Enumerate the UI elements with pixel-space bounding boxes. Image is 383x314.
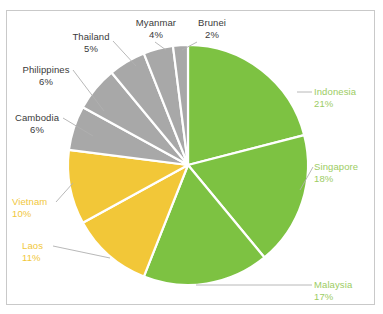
pie-label-brunei: Brunei 2% xyxy=(190,17,234,40)
pie-label-cambodia-name: Cambodia xyxy=(9,112,65,124)
pie-label-singapore-percent: 18% xyxy=(314,173,358,185)
pie-label-brunei-percent: 2% xyxy=(190,29,234,41)
pie-chart-figure: Indonesia 21% Singapore 18% Malaysia 17%… xyxy=(0,0,383,314)
pie-label-thailand-percent: 5% xyxy=(66,43,116,55)
pie-label-myanmar: Myanmar 4% xyxy=(129,17,183,40)
pie-label-malaysia-percent: 17% xyxy=(314,291,352,303)
pie-label-vietnam-percent: 10% xyxy=(12,208,47,220)
pie-label-indonesia-name: Indonesia xyxy=(314,86,356,98)
pie-label-cambodia-percent: 6% xyxy=(9,124,65,136)
pie-label-malaysia-name: Malaysia xyxy=(314,279,352,291)
pie-label-malaysia: Malaysia 17% xyxy=(314,279,352,302)
pie-label-thailand-name: Thailand xyxy=(66,31,116,43)
pie-label-philippines: Philippines 6% xyxy=(15,64,77,87)
pie-label-thailand: Thailand 5% xyxy=(66,31,116,54)
pie-label-brunei-name: Brunei xyxy=(190,17,234,29)
pie-label-myanmar-name: Myanmar xyxy=(129,17,183,29)
pie-label-laos-percent: 11% xyxy=(22,252,43,264)
pie-svg xyxy=(0,0,383,314)
pie-label-indonesia: Indonesia 21% xyxy=(314,86,356,109)
pie-label-myanmar-percent: 4% xyxy=(129,29,183,41)
pie-label-indonesia-percent: 21% xyxy=(314,98,356,110)
pie-label-singapore-name: Singapore xyxy=(314,161,358,173)
pie-label-philippines-name: Philippines xyxy=(15,64,77,76)
pie-slice-group xyxy=(68,45,308,285)
pie-label-vietnam-name: Vietnam xyxy=(12,196,47,208)
pie-label-singapore: Singapore 18% xyxy=(314,161,358,184)
pie-label-laos: Laos 11% xyxy=(22,240,43,263)
pie-label-philippines-percent: 6% xyxy=(15,76,77,88)
pie-label-vietnam: Vietnam 10% xyxy=(12,196,47,219)
pie-label-cambodia: Cambodia 6% xyxy=(9,112,65,135)
pie-label-laos-name: Laos xyxy=(22,240,43,252)
